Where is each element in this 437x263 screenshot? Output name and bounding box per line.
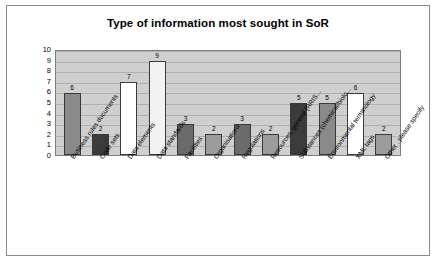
y-tick-label: 2 bbox=[29, 131, 51, 139]
chart-title: Type of information most sought in SoR bbox=[7, 17, 429, 29]
x-axis-labels: Business rules documentsCode setsData el… bbox=[55, 156, 401, 256]
y-tick-label: 4 bbox=[29, 110, 51, 118]
y-tick-label: 0 bbox=[29, 152, 51, 160]
y-tick-label: 6 bbox=[29, 88, 51, 96]
bar-value-label: 7 bbox=[121, 72, 136, 81]
bar-value-label: 9 bbox=[150, 51, 165, 60]
chart-card: Type of information most sought in SoR 0… bbox=[6, 5, 430, 256]
bar-value-label: 6 bbox=[65, 83, 80, 92]
y-tick-label: 9 bbox=[29, 57, 51, 65]
y-tick-label: 10 bbox=[29, 46, 51, 54]
y-axis: 012345678910 bbox=[31, 44, 53, 162]
bar-value-label: 5 bbox=[291, 93, 306, 102]
y-tick-label: 3 bbox=[29, 120, 51, 128]
y-tick-label: 8 bbox=[29, 67, 51, 75]
bar-value-label: 2 bbox=[376, 124, 391, 133]
bar-value-label: 3 bbox=[235, 114, 250, 123]
bar-value-label: 2 bbox=[206, 124, 221, 133]
y-tick-label: 7 bbox=[29, 78, 51, 86]
y-tick-label: 1 bbox=[29, 141, 51, 149]
y-tick-label: 5 bbox=[29, 99, 51, 107]
bar[interactable]: 9 bbox=[149, 61, 166, 155]
